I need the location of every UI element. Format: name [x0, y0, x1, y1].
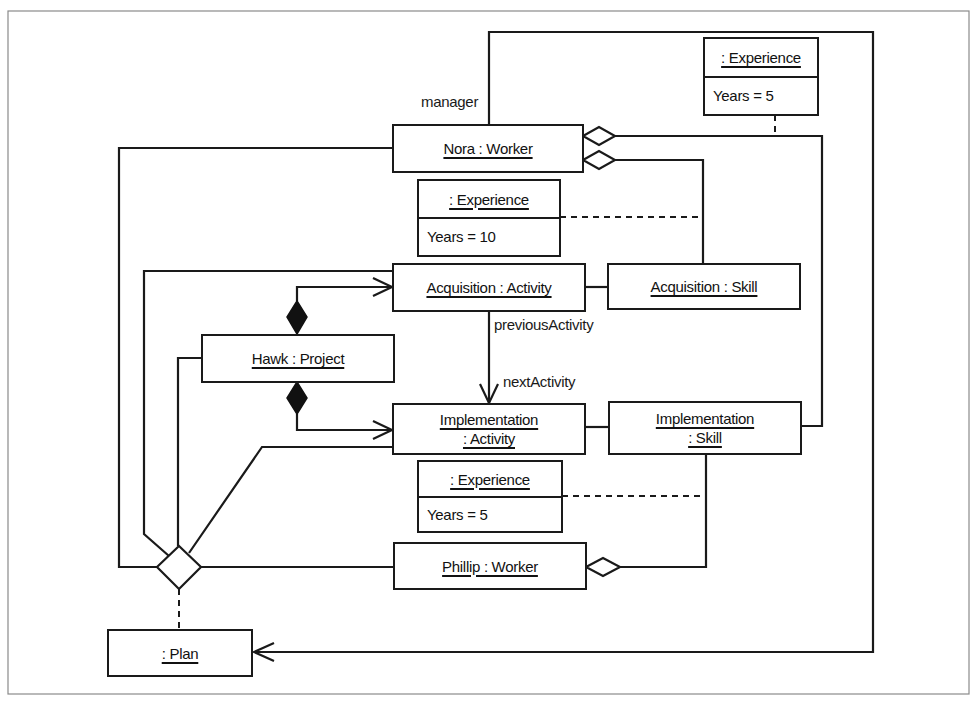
object-plan[interactable]: : Plan: [107, 629, 253, 677]
nary-leg-impl-activity: [189, 447, 392, 553]
link-object-name: : Experience: [449, 191, 529, 208]
object-label: Phillip : Worker: [442, 557, 538, 576]
link-object-header: : Experience: [419, 181, 559, 219]
link-object-name: : Experience: [721, 49, 801, 66]
nora-acq-skill-link: [615, 160, 703, 263]
manager-role-label: manager: [421, 93, 478, 110]
object-hawk-project[interactable]: Hawk : Project: [201, 334, 395, 383]
phillip-aggregation-diamond-icon: [586, 558, 620, 576]
object-label: Acquisition : Activity: [426, 278, 551, 297]
object-implementation-activity[interactable]: Implementation : Activity: [392, 403, 586, 455]
link-object-attribute: Years = 5: [419, 498, 561, 530]
hawk-composition-diamond-bottom-icon: [287, 382, 307, 414]
link-object-header: : Experience: [705, 39, 817, 78]
previous-activity-role-label: previousActivity: [494, 316, 593, 333]
object-implementation-skill[interactable]: Implementation : Skill: [608, 401, 802, 455]
hawk-composition-diamond-top-icon: [287, 301, 307, 334]
hawk-impl-activity-link: [297, 414, 392, 430]
link-object-experience-10[interactable]: : Experience Years = 10: [417, 179, 561, 257]
nora-aggregation-diamond-icon: [583, 127, 615, 145]
object-acquisition-activity[interactable]: Acquisition : Activity: [392, 263, 586, 312]
connector-layer: [0, 0, 978, 705]
impl-skill-phillip-link: [620, 454, 706, 567]
nora-aggregation-diamond-2-icon: [583, 151, 615, 169]
link-object-attribute: Years = 5: [705, 78, 817, 113]
object-label-line1: Implementation: [656, 409, 754, 428]
link-object-experience-5[interactable]: : Experience Years = 5: [417, 460, 563, 533]
object-label-line2: : Skill: [688, 428, 722, 447]
object-label: Nora : Worker: [443, 139, 532, 158]
link-object-attribute: Years = 10: [419, 219, 559, 254]
uml-object-diagram: manager previousActivity nextActivity No…: [0, 0, 978, 705]
link-object-name: : Experience: [450, 471, 530, 488]
object-label: : Plan: [162, 644, 199, 663]
object-label: Hawk : Project: [252, 349, 345, 368]
object-label-line2: : Activity: [463, 429, 515, 448]
object-phillip-worker[interactable]: Phillip : Worker: [393, 542, 587, 590]
nary-leg-hawk: [178, 358, 201, 546]
object-label-line1: Implementation: [440, 410, 538, 429]
object-nora-worker[interactable]: Nora : Worker: [392, 124, 584, 173]
link-object-header: : Experience: [419, 462, 561, 498]
link-object-experience-top[interactable]: : Experience Years = 5: [703, 37, 819, 116]
object-label: Acquisition : Skill: [651, 277, 758, 296]
object-acquisition-skill[interactable]: Acquisition : Skill: [607, 263, 801, 310]
nary-leg-acq-activity: [144, 271, 392, 556]
next-activity-role-label: nextActivity: [503, 373, 575, 390]
